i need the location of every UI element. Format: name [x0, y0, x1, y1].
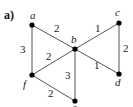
- part-label: a): [4, 8, 14, 22]
- edge-weight-b-d: 1: [94, 59, 100, 71]
- vertex-label-d: d: [115, 76, 121, 88]
- vertex-label-f: f: [23, 78, 28, 90]
- vertex-b: [72, 46, 77, 51]
- vertex-c: [116, 20, 121, 25]
- weighted-graph: a) 21213232 abcdef: [0, 0, 133, 107]
- edge-weight-c-d: 2: [123, 42, 129, 54]
- edge-weight-a-b: 2: [54, 22, 60, 34]
- edge-weight-b-c: 1: [95, 22, 101, 34]
- vertex-label-e: e: [72, 101, 77, 107]
- edge-weight-f-b: 2: [46, 50, 52, 62]
- edge-weight-a-f: 3: [20, 43, 26, 55]
- edge-weight-f-e: 2: [48, 87, 54, 99]
- vertices-group: abcdef: [23, 6, 122, 107]
- vertex-label-b: b: [71, 33, 77, 45]
- vertex-label-a: a: [30, 9, 36, 21]
- vertex-a: [29, 22, 34, 27]
- edge-weight-b-e: 3: [65, 69, 71, 81]
- vertex-f: [29, 72, 34, 77]
- vertex-label-c: c: [115, 6, 120, 18]
